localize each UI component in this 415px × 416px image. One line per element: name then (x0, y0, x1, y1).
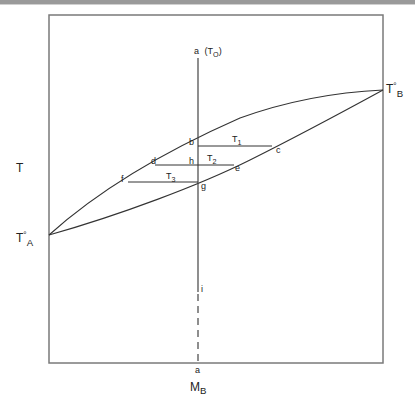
x-axis-label-sub: B (200, 385, 206, 396)
tie-label-T1: T1 (232, 135, 242, 147)
tie-label-T1-sub: 1 (238, 138, 242, 147)
tie-label-T2-sub: 2 (213, 157, 217, 166)
label-T0-main: (T (205, 46, 214, 56)
plot-frame (49, 15, 383, 363)
x-axis-label: MB (190, 381, 206, 397)
phase-diagram (0, 0, 415, 416)
label-T0-close: ) (219, 46, 222, 56)
label-a-top: a (TO) (194, 47, 222, 59)
point-h: h (189, 157, 194, 166)
label-a: a (194, 46, 199, 56)
endpoint-TA: T°A (16, 229, 33, 249)
tie-label-T3: T3 (166, 172, 176, 184)
x-axis-label-main: M (190, 380, 200, 394)
endpoint-TA-sub: A (27, 237, 33, 248)
label-i: i (201, 285, 203, 294)
tie-label-T2: T2 (207, 154, 217, 166)
point-e: e (235, 164, 240, 173)
y-axis-label: T (16, 162, 23, 174)
endpoint-TB: T°B (386, 80, 403, 100)
point-g: g (201, 182, 206, 191)
label-a-bottom: a (195, 366, 200, 375)
point-d: d (151, 157, 156, 166)
point-b: b (189, 138, 194, 147)
tie-label-T3-sub: 3 (172, 175, 176, 184)
point-f: f (121, 175, 124, 184)
point-c: c (276, 146, 281, 155)
endpoint-TB-sub: B (397, 88, 403, 99)
